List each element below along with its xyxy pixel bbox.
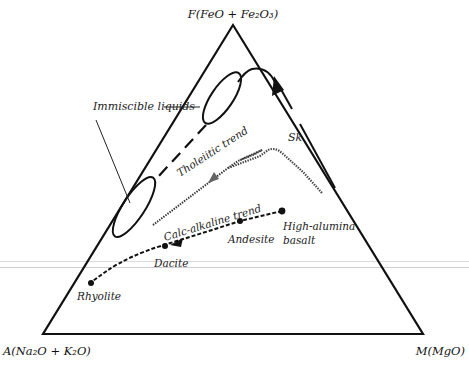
ternary-triangle xyxy=(43,25,423,334)
dacite-label: Dacite xyxy=(153,257,188,269)
rhyolite-label: Rhyolite xyxy=(76,290,121,302)
immiscible-leader-lower xyxy=(96,120,130,203)
andesite-label: Andesite xyxy=(227,233,274,245)
vertex-label-m: M(MgO) xyxy=(415,344,465,358)
tholeiitic-label: Tholeiitic trend xyxy=(175,124,251,179)
point-high-alumina-basalt xyxy=(279,208,286,215)
immiscible-ellipse-lower xyxy=(106,172,163,243)
skaergaard-trend: Sk xyxy=(238,69,335,188)
immiscible-ellipse-upper xyxy=(196,67,248,129)
tholeiitic-arrowhead xyxy=(208,172,219,183)
vertex-label-a: A(Na₂O + K₂O) xyxy=(2,344,91,358)
high-alumina-label-line2: basalt xyxy=(283,234,316,246)
point-rhyolite xyxy=(88,280,94,286)
afm-ternary-diagram: F(FeO + Fe₂O₃) A(Na₂O + K₂O) M(MgO) Sk I… xyxy=(0,0,469,371)
high-alumina-label-line1: High-alumina xyxy=(282,220,355,232)
sk-label: Sk xyxy=(288,131,303,144)
vertex-label-f: F(FeO + Fe₂O₃) xyxy=(187,7,278,21)
point-dacite xyxy=(162,243,168,249)
